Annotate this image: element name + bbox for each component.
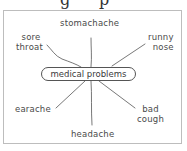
line-bad-cough [99,81,135,108]
branch-label-line2: cough [137,114,164,124]
branch-headache: headache [71,129,114,139]
line-sore-throat [47,45,81,67]
branch-sore-throat: sore throat [16,32,43,52]
line-runny-nose [112,44,145,66]
branch-label-line2: throat [16,42,43,52]
central-topic: medical problems [41,67,136,81]
branch-label-line2: nose [148,42,174,52]
line-headache [91,81,92,125]
branch-earache: earache [15,104,51,114]
branch-label-line1: runny [148,32,174,42]
line-earache [56,81,85,108]
central-topic-label: medical problems [51,69,127,79]
branch-stomachache: stomachache [60,18,119,28]
branch-label-line1: bad [137,104,164,114]
branch-bad-cough: bad cough [137,104,164,124]
branch-label-line1: sore [16,32,43,42]
branch-runny-nose: runny nose [148,32,174,52]
